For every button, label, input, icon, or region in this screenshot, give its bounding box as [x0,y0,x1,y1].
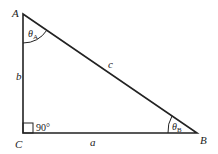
vertex-label-c: C [15,138,23,150]
side-label-a: a [90,136,96,148]
vertex-label-a: A [11,7,19,19]
angle-label-b: θB [172,121,182,134]
angle-label-a: θA [28,28,38,41]
angle-label-c: 90° [36,122,50,133]
triangle-outline [23,14,197,133]
side-label-c: c [108,58,113,70]
side-label-b: b [16,70,22,82]
right-triangle-diagram: A C B b c a θA θB 90° [0,0,218,154]
right-angle-marker [23,123,33,133]
vertex-label-b: B [200,134,207,146]
